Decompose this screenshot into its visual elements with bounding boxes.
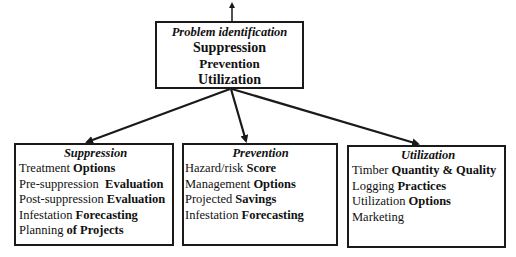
list-item: Post-suppression Evaluation [19, 192, 172, 208]
list-item: Logging Practices [352, 179, 504, 195]
arrow-to-utilization [232, 89, 418, 144]
top-item-prevention: Prevention [157, 56, 302, 72]
list-item: Marketing [352, 210, 504, 226]
list-item: Timber Quantity & Quality [352, 163, 504, 179]
problem-identification-box: Problem identification Suppression Preve… [155, 21, 304, 89]
suppression-title: Suppression [19, 146, 172, 161]
list-item: Treatment Options [19, 161, 172, 177]
arrow-to-suppression [87, 89, 230, 142]
suppression-box: Suppression Treatment Options Pre-suppre… [14, 143, 174, 246]
utilization-title: Utilization [352, 148, 504, 163]
top-item-suppression: Suppression [157, 40, 302, 56]
list-item: Infestation Forecasting [185, 208, 336, 224]
problem-identification-title: Problem identification [157, 25, 302, 40]
prevention-title: Prevention [185, 146, 336, 161]
list-item: Pre-suppression Evaluation [19, 177, 172, 193]
list-item: Hazard/risk Score [185, 161, 336, 177]
list-item: Utilization Options [352, 194, 504, 210]
list-item: Management Options [185, 177, 336, 193]
top-item-utilization: Utilization [157, 72, 302, 88]
prevention-box: Prevention Hazard/risk Score Management … [182, 143, 338, 246]
incoming-arrow-icon [229, 2, 235, 21]
list-item: Infestation Forecasting [19, 208, 172, 224]
arrow-to-prevention [231, 89, 246, 141]
list-item: Planning of Projects [19, 223, 172, 239]
list-item: Projected Savings [185, 192, 336, 208]
utilization-box: Utilization Timber Quantity & Quality Lo… [347, 145, 506, 248]
